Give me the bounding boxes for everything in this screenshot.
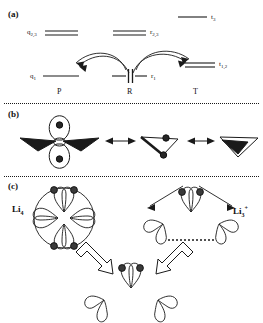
level-label-r1: r1 xyxy=(151,73,156,81)
cluster-li4 xyxy=(33,187,95,250)
li3-lobe-right xyxy=(216,220,239,244)
species-label-li3plus: Li3+ xyxy=(233,205,248,218)
region-label-t: T xyxy=(193,88,198,96)
region-label-r: R xyxy=(127,88,132,96)
panel-c-diagram xyxy=(0,180,263,323)
arrow-r-to-p-heads xyxy=(76,62,87,73)
level-r23 xyxy=(113,31,146,35)
li3-lobe-left xyxy=(144,220,167,244)
level-t12 xyxy=(185,63,215,67)
center-lobe-right xyxy=(155,296,178,322)
center-lobe-left xyxy=(85,296,108,322)
divider-b-c xyxy=(4,176,259,177)
li3-arrow-right xyxy=(199,186,232,206)
arrow-r-to-t-heads xyxy=(178,57,189,68)
li4-lobe-right xyxy=(70,208,95,228)
panel-a-diagram xyxy=(0,0,263,100)
figure-root: (a) xyxy=(0,0,263,323)
cluster-li3plus xyxy=(144,186,239,244)
level-label-t3: t3 xyxy=(211,14,215,22)
divider-a-b xyxy=(4,103,259,104)
region-label-p: P xyxy=(57,88,61,96)
species-label-li4: Li4 xyxy=(12,205,24,216)
li4-lobe-left xyxy=(33,208,58,228)
structure-v-shape-two-dots xyxy=(141,135,178,158)
structure-v-shape-filled xyxy=(220,137,258,157)
li3-arrow-left xyxy=(150,186,183,206)
panel-b-diagram xyxy=(0,110,263,172)
level-q23 xyxy=(45,31,78,35)
arrow-li4-to-center xyxy=(76,242,113,274)
level-r1-barrier xyxy=(129,69,133,83)
structure-orbital-vertical xyxy=(20,116,99,169)
level-label-r23: r2,3 xyxy=(150,29,159,37)
level-label-q23: q2,3 xyxy=(27,29,37,37)
level-label-q1: q1 xyxy=(30,73,36,81)
arrow-center-to-li3plus xyxy=(156,242,193,274)
level-label-t12: t1,2 xyxy=(219,61,227,69)
